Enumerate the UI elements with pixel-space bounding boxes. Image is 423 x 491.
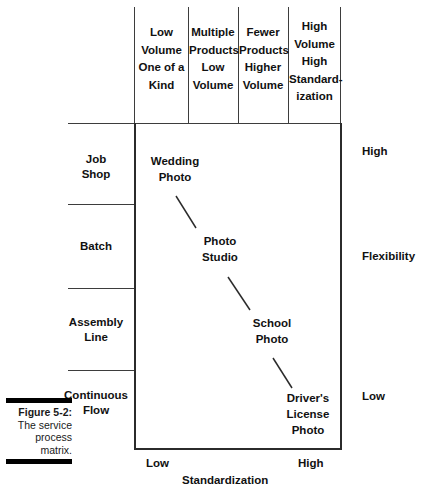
data-point-photo-studio: Photo Studio <box>188 233 252 265</box>
row-label-batch: Batch <box>60 239 132 254</box>
column-header-multiple-products: Multiple Products Low Volume <box>189 24 237 94</box>
column-header-high-volume: High Volume High Standard- ization <box>289 18 340 106</box>
y-axis-title-flexibility: Flexibility <box>362 249 415 263</box>
row-label-job-shop: Job Shop <box>60 152 132 181</box>
caption-label: Figure 5-2: <box>6 406 72 419</box>
caption-body: The service process matrix. <box>6 419 72 457</box>
column-header-fewer-products: Fewer Products Higher Volume <box>239 24 287 94</box>
y-axis-label-low: Low <box>362 389 385 403</box>
data-point-school-photo: School Photo <box>240 315 304 347</box>
header-divider-5 <box>340 7 341 124</box>
x-axis-line <box>134 448 342 450</box>
column-header-low-volume: Low Volume One of a Kind <box>136 24 187 94</box>
row-separator-2 <box>68 288 135 289</box>
service-process-matrix-figure: Low Volume One of a Kind Multiple Produc… <box>0 0 423 491</box>
row-separator-1 <box>68 204 135 205</box>
plot-right-border <box>340 123 342 450</box>
row-label-assembly-line: Assembly Line <box>60 315 132 344</box>
caption-rule-bottom <box>6 459 72 464</box>
row-separator-3 <box>68 370 135 371</box>
y-axis-line <box>134 123 136 450</box>
x-axis-title-standardization: Standardization <box>182 474 268 486</box>
row-separator-top <box>68 123 341 124</box>
x-axis-label-high: High <box>298 457 324 469</box>
y-axis-label-high: High <box>362 144 388 158</box>
data-point-drivers-license-photo: Driver's License Photo <box>276 390 340 438</box>
figure-caption-block: Figure 5-2: The service process matrix. <box>6 398 72 464</box>
data-point-wedding-photo: Wedding Photo <box>141 153 209 185</box>
caption-text: Figure 5-2: The service process matrix. <box>6 403 72 459</box>
x-axis-label-low: Low <box>146 457 169 469</box>
